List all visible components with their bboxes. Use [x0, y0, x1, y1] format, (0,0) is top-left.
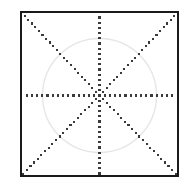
- spoke-dot: [62, 132, 64, 134]
- spoke-dot: [98, 27, 100, 29]
- spoke-dot: [95, 98, 97, 100]
- spoke-dot: [31, 22, 33, 24]
- spoke-dot: [24, 15, 26, 17]
- spoke-dot: [72, 94, 74, 96]
- spoke-dot: [46, 94, 48, 96]
- spoke-dot: [98, 172, 100, 174]
- spoke-dot: [173, 15, 175, 17]
- spoke-dot: [38, 30, 40, 32]
- spoke-dot: [48, 147, 50, 149]
- spoke-dot: [44, 150, 46, 152]
- spoke-dot: [98, 167, 100, 169]
- spoke-dot: [146, 143, 148, 145]
- spoke-dot: [127, 124, 129, 126]
- spoke-dot: [167, 165, 169, 167]
- spoke-dot: [104, 94, 106, 96]
- spoke-dot: [109, 83, 111, 85]
- spoke-dot: [98, 63, 100, 65]
- spoke-dot: [26, 169, 28, 171]
- spoke-dot: [141, 49, 143, 51]
- spoke-dot: [98, 136, 100, 138]
- spoke-dot: [56, 49, 58, 51]
- spoke-dot: [106, 87, 108, 89]
- spoke-dot: [49, 41, 51, 43]
- spoke-dot: [59, 53, 61, 55]
- spoke-dot: [161, 94, 163, 96]
- spoke-dot: [124, 121, 126, 123]
- spoke-dot: [142, 139, 144, 141]
- spoke-dot: [37, 158, 39, 160]
- spoke-dot: [131, 128, 133, 130]
- spoke-dot: [135, 132, 137, 134]
- spoke-dot: [62, 94, 64, 96]
- spoke-dot: [98, 74, 100, 76]
- spoke-dot: [120, 72, 122, 74]
- spoke-dot: [78, 94, 80, 96]
- spoke-dot: [74, 68, 76, 70]
- spoke-dot: [57, 94, 59, 96]
- geometric-figure: [0, 0, 188, 188]
- spoke-dot: [45, 38, 47, 40]
- spoke-dot: [113, 109, 115, 111]
- spoke-dot: [98, 89, 100, 91]
- spoke-dot: [40, 154, 42, 156]
- spoke-dot: [130, 94, 132, 96]
- spoke-dot: [166, 22, 168, 24]
- figure-background: [0, 0, 188, 188]
- spoke-dot: [98, 131, 100, 133]
- spoke-dot: [109, 106, 111, 108]
- spoke-dot: [135, 94, 137, 96]
- spoke-dot: [98, 146, 100, 148]
- spoke-dot: [98, 152, 100, 154]
- spoke-dot: [98, 110, 100, 112]
- spoke-dot: [156, 94, 158, 96]
- spoke-dot: [123, 68, 125, 70]
- spoke-dot: [59, 135, 61, 137]
- spoke-dot: [98, 162, 100, 164]
- spoke-dot: [22, 173, 24, 175]
- spoke-dot: [98, 37, 100, 39]
- spoke-dot: [98, 16, 100, 18]
- spoke-dot: [164, 161, 166, 163]
- spoke-dot: [80, 113, 82, 115]
- spoke-dot: [140, 94, 142, 96]
- spoke-dot: [102, 98, 104, 100]
- spoke-dot: [170, 19, 172, 21]
- spoke-dot: [77, 72, 79, 74]
- spoke-dot: [145, 45, 147, 47]
- spoke-dot: [98, 79, 100, 81]
- spoke-dot: [98, 48, 100, 50]
- spoke-dot: [63, 57, 65, 59]
- spoke-east: [98, 94, 173, 96]
- spoke-dot: [124, 94, 126, 96]
- spoke-dot: [102, 91, 104, 93]
- spoke-dot: [98, 22, 100, 24]
- spoke-dot: [29, 165, 31, 167]
- spoke-dot: [95, 91, 97, 93]
- spoke-dot: [98, 115, 100, 117]
- spoke-dot: [66, 60, 68, 62]
- spoke-dot: [153, 150, 155, 152]
- spoke-dot: [98, 42, 100, 44]
- spoke-dot: [171, 169, 173, 171]
- spoke-dot: [88, 94, 90, 96]
- spoke-dot: [157, 154, 159, 156]
- spoke-dot: [106, 102, 108, 104]
- spoke-dot: [67, 94, 69, 96]
- spoke-dot: [27, 19, 29, 21]
- spoke-dot: [41, 94, 43, 96]
- spoke-dot: [98, 126, 100, 128]
- spoke-dot: [159, 30, 161, 32]
- spoke-dot: [98, 32, 100, 34]
- spoke-dot: [52, 94, 54, 96]
- spoke-dot: [138, 53, 140, 55]
- spoke-dot: [152, 38, 154, 40]
- spoke-dot: [52, 45, 54, 47]
- spoke-dot: [66, 128, 68, 130]
- spoke-dot: [88, 106, 90, 108]
- spoke-dot: [34, 26, 36, 28]
- spoke-dot: [119, 94, 121, 96]
- spoke-dot: [36, 94, 38, 96]
- spoke-dot: [131, 60, 133, 62]
- spoke-dot: [83, 94, 85, 96]
